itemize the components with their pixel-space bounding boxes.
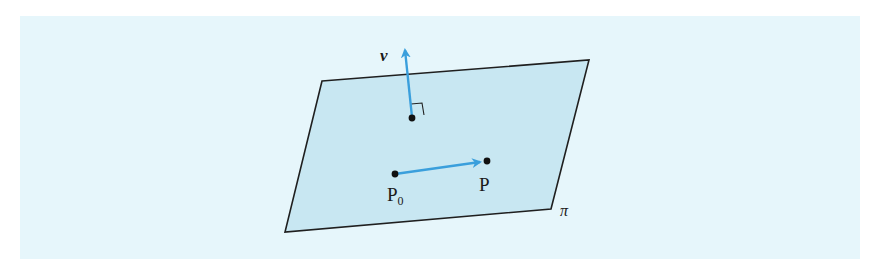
point-base-of-normal	[409, 115, 416, 122]
label-p: P	[479, 174, 490, 195]
plane-pi	[285, 60, 589, 232]
label-pi: π	[560, 202, 569, 219]
point-p0	[392, 171, 399, 178]
label-p0-subscript: 0	[398, 194, 404, 208]
plane-diagram: v P0 P π	[0, 0, 876, 279]
point-p	[484, 158, 491, 165]
label-p0-main: P	[387, 184, 398, 205]
label-v: v	[380, 46, 388, 65]
